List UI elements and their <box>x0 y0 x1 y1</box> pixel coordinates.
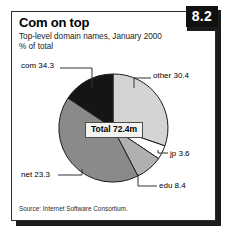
pie-label-other: other 30.4 <box>153 72 189 80</box>
pie-chart-plot-area: com 34.3 other 30.4 jp 3.6 edu 8.4 net 2… <box>12 52 214 204</box>
leader-line-edu <box>138 174 157 186</box>
source-note: Source: Internet Software Consortium. <box>19 205 128 212</box>
heading-block: Com on top Top-level domain names, Janua… <box>19 16 169 52</box>
figure-number-badge: 8.2 <box>186 6 218 27</box>
pie-label-jp: jp 3.6 <box>170 150 190 158</box>
page-title: Com on top <box>19 16 169 31</box>
pie-label-edu: edu 8.4 <box>159 182 186 190</box>
pie-label-com: com 34.3 <box>21 62 54 70</box>
pie-label-net: net 23.3 <box>21 171 50 179</box>
figure-panel: 8.2 Com on top Top-level domain names, J… <box>11 11 216 221</box>
total-callout: Total 72.4m <box>85 122 143 138</box>
chart-subtitle-line-2: % of total <box>19 42 169 52</box>
chart-subtitle-line-1: Top-level domain names, January 2000 <box>19 32 169 42</box>
